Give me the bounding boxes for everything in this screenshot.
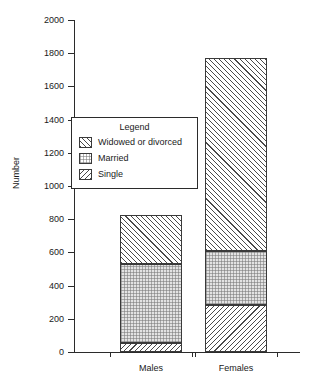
y-tick-label-1000: 1000 xyxy=(44,182,64,191)
legend-label-widowed-or-divorced: Widowed or divorced xyxy=(98,137,182,148)
x-tick-right-males xyxy=(192,352,193,357)
y-tick-label-1200: 1200 xyxy=(44,149,64,158)
legend: Legend Widowed or divorced Married Singl… xyxy=(71,117,198,189)
bar-females[interactable] xyxy=(205,58,267,352)
legend-swatch-widowed-or-divorced-icon xyxy=(79,137,92,148)
legend-title: Legend xyxy=(72,122,197,133)
bar-females-segment-widowed-or-divorced[interactable] xyxy=(205,58,267,251)
y-tick-label-600: 600 xyxy=(49,248,64,257)
bar-females-segment-married[interactable] xyxy=(205,251,267,305)
x-tick-label-males: Males xyxy=(121,363,181,373)
y-tick-0 xyxy=(68,352,74,353)
y-tick-800 xyxy=(68,219,74,220)
bar-males-segment-widowed-or-divorced[interactable] xyxy=(120,215,182,264)
y-tick-label-2000: 2000 xyxy=(44,16,64,25)
x-tick-label-females: Females xyxy=(206,363,266,373)
x-tick-left-females xyxy=(195,352,196,357)
y-tick-label-0: 0 xyxy=(59,348,64,357)
y-tick-label-1600: 1600 xyxy=(44,82,64,91)
x-tick-left-males xyxy=(110,352,111,357)
y-tick-1800 xyxy=(68,53,74,54)
y-tick-label-1400: 1400 xyxy=(44,116,64,125)
bar-males-segment-married[interactable] xyxy=(120,264,182,343)
y-tick-label-400: 400 xyxy=(49,282,64,291)
x-axis-line xyxy=(74,352,300,353)
legend-label-single: Single xyxy=(98,169,123,180)
y-axis-title: Number xyxy=(11,143,21,203)
legend-swatch-single-icon xyxy=(79,169,92,180)
bar-females-segment-single[interactable] xyxy=(205,305,267,352)
bar-males-segment-single[interactable] xyxy=(120,343,182,352)
y-tick-label-200: 200 xyxy=(49,315,64,324)
y-tick-1600 xyxy=(68,86,74,87)
y-tick-2000 xyxy=(68,20,74,21)
y-tick-200 xyxy=(68,319,74,320)
legend-label-married: Married xyxy=(98,153,129,164)
x-tick-right-females xyxy=(277,352,278,357)
bar-males[interactable] xyxy=(120,215,182,352)
y-tick-400 xyxy=(68,286,74,287)
y-tick-label-800: 800 xyxy=(49,215,64,224)
y-tick-600 xyxy=(68,252,74,253)
stacked-bar-chart: Number 0 200 400 600 800 1000 1200 1400 … xyxy=(0,0,318,392)
y-tick-label-1800: 1800 xyxy=(44,49,64,58)
legend-swatch-married-icon xyxy=(79,153,92,164)
